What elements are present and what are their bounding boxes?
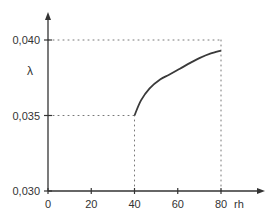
chart: 0204060800,0300,0350,040 rh λ [0, 0, 269, 219]
y-tick-label: 0,040 [12, 34, 40, 46]
ticks [44, 40, 221, 194]
data-curve [135, 51, 222, 116]
y-tick-label: 0,030 [12, 185, 40, 197]
x-tick-label: 80 [215, 198, 227, 210]
axes [45, 12, 265, 194]
x-tick-label: 0 [45, 198, 51, 210]
x-axis-label: rh [234, 198, 244, 210]
x-axis-arrow-icon [257, 188, 265, 194]
y-axis-arrow-icon [45, 12, 51, 20]
y-axis-label: λ [27, 64, 33, 78]
x-tick-label: 20 [85, 198, 97, 210]
x-tick-label: 40 [128, 198, 140, 210]
x-tick-label: 60 [172, 198, 184, 210]
y-tick-label: 0,035 [12, 110, 40, 122]
